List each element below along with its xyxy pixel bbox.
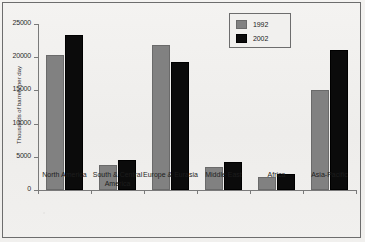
y-tick-10000: 10000 xyxy=(34,124,39,125)
bar-1992 xyxy=(258,177,276,190)
bar-group xyxy=(46,24,83,190)
x-tick-5 xyxy=(303,190,304,194)
y-tick-5000: 5000 xyxy=(34,157,39,158)
legend-label-2002: 2002 xyxy=(253,35,268,42)
bar-1992 xyxy=(152,45,170,190)
x-tick-2 xyxy=(144,190,145,194)
chart-legend: 1992 2002 xyxy=(229,13,291,48)
y-tick-25000: 25000 xyxy=(34,24,39,25)
x-tick-3 xyxy=(197,190,198,194)
y-tick-label-5000: 5000 xyxy=(16,152,31,159)
y-tick-label-20000: 20000 xyxy=(13,52,31,59)
legend-item-1992: 1992 xyxy=(236,19,268,30)
chart-page: Thousands of barrels per day 05000100001… xyxy=(0,0,365,242)
y-tick-15000: 15000 xyxy=(34,90,39,91)
x-tick-0 xyxy=(38,190,39,194)
x-tick-4 xyxy=(250,190,251,194)
legend-swatch-2002 xyxy=(236,34,247,43)
legend-label-1992: 1992 xyxy=(253,21,268,28)
bar-2002 xyxy=(330,50,348,190)
y-tick-label-10000: 10000 xyxy=(13,119,31,126)
bar-group xyxy=(311,24,348,190)
x-category-label: Asia-Pacific xyxy=(297,170,363,179)
bar-group xyxy=(205,24,242,190)
x-tick-6 xyxy=(356,190,357,194)
legend-swatch-1992 xyxy=(236,20,247,29)
y-tick-label-25000: 25000 xyxy=(13,19,31,26)
x-tick-1 xyxy=(91,190,92,194)
bar-group xyxy=(258,24,295,190)
bar-2002 xyxy=(65,35,83,190)
y-tick-label-0: 0 xyxy=(27,185,31,192)
plot-area: 0500010000150002000025000 xyxy=(38,24,356,190)
bar-group xyxy=(99,24,136,190)
y-axis-line xyxy=(38,24,39,191)
y-tick-label-15000: 15000 xyxy=(13,85,31,92)
bar-group xyxy=(152,24,189,190)
legend-item-2002: 2002 xyxy=(236,33,268,44)
y-tick-20000: 20000 xyxy=(34,57,39,58)
